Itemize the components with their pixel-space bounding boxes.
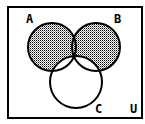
venn-diagram: A B C U bbox=[0, 0, 145, 124]
label-universe: U bbox=[130, 102, 137, 116]
label-c: C bbox=[95, 102, 102, 116]
label-b: B bbox=[114, 12, 121, 26]
label-a: A bbox=[26, 12, 34, 26]
